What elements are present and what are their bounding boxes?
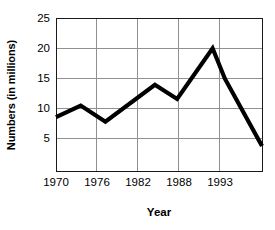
x-tick-label-1976: 1976 xyxy=(75,177,119,189)
plot-area xyxy=(0,0,275,230)
data-series-line xyxy=(56,48,262,146)
x-tick-label-1988: 1988 xyxy=(157,177,201,189)
x-tick-label-1982: 1982 xyxy=(116,177,160,189)
line-chart: Numbers (in millions) 25 20 15 10 5 1970… xyxy=(0,0,275,230)
x-axis-title: Year xyxy=(56,206,262,218)
vertical-gridlines xyxy=(97,19,220,172)
x-tick-label-1970: 1970 xyxy=(34,177,78,189)
x-tick-label-1993: 1993 xyxy=(198,177,242,189)
